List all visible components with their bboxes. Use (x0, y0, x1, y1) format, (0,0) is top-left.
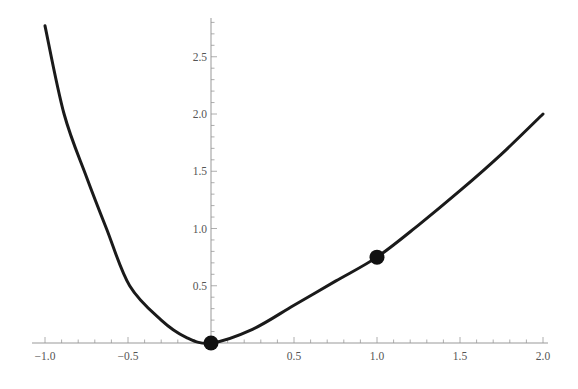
x-tick-label: 1.5 (453, 350, 468, 362)
y-tick-label: 0.5 (193, 280, 208, 292)
y-tick-label: 2.5 (193, 51, 208, 63)
x-tick-label: −1.0 (35, 350, 56, 362)
x-tick-label: 1.0 (370, 350, 385, 362)
highlighted-points (204, 250, 385, 351)
data-point-marker (370, 250, 385, 265)
x-tick-label: 2.0 (536, 350, 551, 362)
data-point-marker (204, 336, 219, 351)
function-curve (45, 26, 543, 343)
function-plot: −1.0−0.50.51.01.52.00.51.01.52.02.5 (0, 0, 578, 389)
x-tick-label: 0.5 (287, 350, 302, 362)
x-tick-label: −0.5 (118, 350, 139, 362)
y-tick-label: 1.5 (193, 165, 208, 177)
y-tick-label: 1.0 (193, 223, 208, 235)
tick-labels: −1.0−0.50.51.01.52.00.51.01.52.02.5 (35, 51, 551, 362)
y-tick-label: 2.0 (193, 108, 208, 120)
